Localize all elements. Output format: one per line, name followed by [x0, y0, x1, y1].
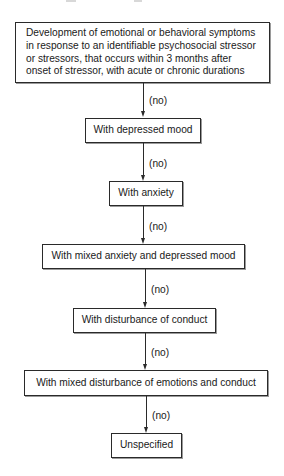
root-line-1: Development of emotional or behavioral s… [26, 27, 256, 40]
edge-label-no: (no) [149, 95, 167, 107]
node-label: With mixed anxiety and depressed mood [51, 250, 235, 262]
node-label: Unspecified [120, 439, 173, 451]
cropped-header-remnant [0, 0, 284, 6]
connector-line [146, 396, 147, 427]
edge-label-no: (no) [151, 347, 169, 359]
edge-label-no: (no) [149, 158, 167, 170]
node-unspecified: Unspecified [111, 433, 182, 458]
edge-label-no: (no) [149, 221, 167, 233]
connector-line [145, 269, 146, 302]
edge-label-no: (no) [152, 410, 170, 422]
connector-line [143, 143, 144, 175]
root-line-3: or stressors, that occurs within 3 month… [26, 53, 256, 66]
node-label: With mixed disturbance of emotions and c… [36, 377, 256, 389]
connector-line [143, 83, 144, 112]
connector-line [143, 206, 144, 238]
root-line-4: onset of stressor, with acute or chronic… [26, 65, 256, 78]
node-label: With anxiety [118, 187, 173, 199]
edge-label-no: (no) [151, 284, 169, 296]
node-mixed-emotions-conduct: With mixed disturbance of emotions and c… [24, 370, 268, 396]
connector-line [145, 333, 146, 364]
root-criteria-text: Development of emotional or behavioral s… [26, 27, 256, 77]
node-mixed-anxiety-depressed: With mixed anxiety and depressed mood [42, 244, 245, 269]
node-label: With depressed mood [93, 124, 192, 136]
node-label: With disturbance of conduct [82, 314, 208, 326]
root-criteria-box: Development of emotional or behavioral s… [15, 22, 270, 83]
node-disturbance-conduct: With disturbance of conduct [73, 308, 216, 333]
node-anxiety: With anxiety [109, 181, 183, 206]
arrow-down-icon [141, 111, 145, 117]
root-line-2: in response to an identifiable psychosoc… [26, 40, 256, 53]
node-depressed-mood: With depressed mood [85, 118, 201, 143]
